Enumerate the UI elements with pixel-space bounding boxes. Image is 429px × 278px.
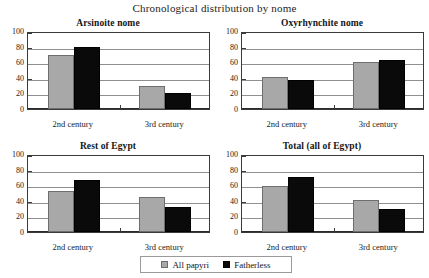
y-axis-tick-label: 60: [230, 59, 238, 67]
x-axis-labels: 2nd century3rd century: [241, 119, 424, 129]
plot-area: [241, 155, 424, 233]
y-axis-labels: 020406080100: [218, 155, 240, 233]
bar-fatherless: [165, 93, 191, 109]
plot-area: [27, 155, 210, 233]
x-axis-labels: 2nd century3rd century: [27, 242, 210, 252]
legend-swatch-all-papyri: [161, 261, 168, 268]
bar-group: [120, 32, 211, 109]
x-axis-tick-mark: [334, 228, 335, 232]
bar-group: [120, 155, 211, 232]
legend-entry: Fatherless: [223, 260, 271, 270]
plot-area: [241, 32, 424, 110]
bar-all-papyri: [139, 86, 165, 109]
chart-legend: All papyriFatherless: [140, 256, 292, 273]
bar-all-papyri: [262, 186, 288, 232]
x-axis-tick-label: 2nd century: [241, 242, 333, 252]
y-axis-tick-label: 60: [16, 182, 24, 190]
bar-fatherless: [74, 180, 100, 232]
y-axis-tick-label: 60: [16, 59, 24, 67]
legend-swatch-fatherless: [223, 261, 230, 268]
bar-fatherless: [379, 60, 405, 109]
bar-group: [242, 155, 334, 232]
bar-fatherless: [165, 207, 191, 232]
y-axis-labels: 020406080100: [4, 155, 26, 233]
y-axis-tick-label: 80: [16, 167, 24, 175]
bar-all-papyri: [353, 62, 379, 109]
y-axis-tick-label: 20: [16, 90, 24, 98]
panel-rest-of-egypt: Rest of Egypt 020406080100 2nd century3r…: [4, 141, 212, 253]
y-axis-tick-label: 100: [12, 28, 24, 36]
y-axis-tick-label: 60: [230, 182, 238, 190]
y-axis-tick-label: 20: [230, 90, 238, 98]
bar-group: [334, 155, 425, 232]
chart-title: Chronological distribution by nome: [0, 2, 429, 14]
bar-all-papyri: [139, 197, 165, 232]
plot-area: [27, 32, 210, 110]
x-axis-tick-label: 3rd century: [119, 242, 211, 252]
x-axis-tick-mark: [120, 105, 121, 109]
y-axis-tick-label: 40: [16, 75, 24, 83]
y-axis-labels: 020406080100: [218, 32, 240, 110]
y-axis-tick-label: 0: [20, 106, 24, 114]
x-axis-tick-mark: [120, 228, 121, 232]
y-axis-tick-label: 0: [20, 229, 24, 237]
panel-total-all-of-egypt: Total (all of Egypt) 020406080100 2nd ce…: [218, 141, 426, 253]
panel-oxyrhynchite-nome: Oxyrhynchite nome 020406080100 2nd centu…: [218, 18, 426, 130]
legend-label: All papyri: [172, 260, 209, 270]
panel-title: Arsinoite nome: [4, 18, 212, 28]
y-axis-tick-label: 20: [230, 213, 238, 221]
bar-group: [334, 32, 425, 109]
x-axis-tick-label: 3rd century: [333, 242, 425, 252]
y-axis-tick-label: 80: [230, 44, 238, 52]
legend-entry: All papyri: [161, 260, 209, 270]
bar-group: [28, 32, 120, 109]
y-axis-tick-label: 0: [234, 106, 238, 114]
x-axis-labels: 2nd century3rd century: [27, 119, 210, 129]
y-axis-tick-label: 40: [16, 198, 24, 206]
bar-all-papyri: [48, 191, 74, 232]
bar-fatherless: [288, 177, 314, 232]
legend-label: Fatherless: [234, 260, 271, 270]
bar-fatherless: [74, 47, 100, 109]
bar-fatherless: [379, 209, 405, 232]
panel-title: Oxyrhynchite nome: [218, 18, 426, 28]
x-axis-tick-label: 2nd century: [27, 119, 119, 129]
bar-all-papyri: [48, 55, 74, 109]
x-axis-tick-label: 2nd century: [241, 119, 333, 129]
chart-figure: Chronological distribution by nome Arsin…: [0, 0, 429, 278]
panel-title: Total (all of Egypt): [218, 141, 426, 151]
y-axis-tick-label: 40: [230, 198, 238, 206]
y-axis-tick-label: 100: [12, 151, 24, 159]
y-axis-tick-label: 80: [230, 167, 238, 175]
y-axis-tick-label: 40: [230, 75, 238, 83]
y-axis-labels: 020406080100: [4, 32, 26, 110]
bar-fatherless: [288, 80, 314, 109]
y-axis-tick-label: 100: [226, 151, 238, 159]
y-axis-tick-label: 80: [16, 44, 24, 52]
x-axis-tick-label: 2nd century: [27, 242, 119, 252]
panel-arsinoite-nome: Arsinoite nome 020406080100 2nd century3…: [4, 18, 212, 130]
x-axis-labels: 2nd century3rd century: [241, 242, 424, 252]
bar-group: [242, 32, 334, 109]
bar-group: [28, 155, 120, 232]
x-axis-tick-label: 3rd century: [119, 119, 211, 129]
bar-all-papyri: [262, 77, 288, 109]
y-axis-tick-label: 100: [226, 28, 238, 36]
y-axis-tick-label: 20: [16, 213, 24, 221]
panel-title: Rest of Egypt: [4, 141, 212, 151]
x-axis-tick-mark: [334, 105, 335, 109]
x-axis-tick-label: 3rd century: [333, 119, 425, 129]
bar-all-papyri: [353, 200, 379, 232]
y-axis-tick-label: 0: [234, 229, 238, 237]
